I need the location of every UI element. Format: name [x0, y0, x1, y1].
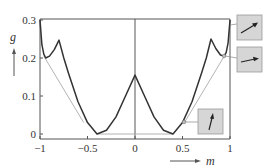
x-tick-label: −0.5	[78, 142, 98, 154]
x-tick-label: −1	[34, 142, 46, 154]
inset-spin-right	[237, 47, 262, 72]
y-tick-label: 0.1	[22, 90, 36, 102]
inset-leader-line	[225, 56, 237, 58]
y-axis-label: g	[10, 30, 16, 44]
x-tick-label: 0	[132, 142, 138, 154]
inset-spin-right-up	[237, 15, 262, 40]
x-tick-label: 0.5	[176, 142, 190, 154]
inset-spin-up	[198, 109, 223, 134]
y-tick-label: 0.2	[22, 52, 36, 64]
y-axis-arrow-icon	[12, 48, 16, 76]
y-tick-label: 0	[31, 128, 37, 140]
x-axis-arrow-icon	[170, 159, 201, 163]
chart: −1−0.500.5100.10.20.3 g m	[0, 0, 274, 168]
y-tick-label: 0.3	[22, 14, 36, 26]
x-tick-label: 1	[227, 142, 233, 154]
x-axis-label: m	[206, 154, 215, 168]
inset-leader-line	[230, 24, 237, 25]
